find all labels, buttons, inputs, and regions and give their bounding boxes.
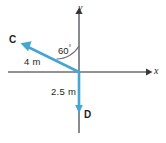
vector-c-label: C (9, 35, 16, 45)
vector-d-magnitude-label: 2.5 m (51, 87, 76, 97)
y-axis-label: y (78, 3, 82, 13)
angle-value: 60 (58, 45, 69, 56)
degree-symbol: ° (69, 44, 72, 51)
vector-d-arrowhead-icon (75, 105, 83, 114)
vector-d-label: D (84, 110, 91, 120)
angle-label: 60° (58, 44, 71, 56)
vector-c-magnitude-label: 4 m (24, 57, 41, 67)
vector-c-arrowhead-icon (21, 41, 32, 51)
vector-d (75, 72, 83, 114)
vector-diagram-figure: y x C D 4 m 2.5 m 60° (0, 0, 166, 143)
vector-diagram-canvas (0, 0, 166, 143)
x-axis-arrowhead-icon (146, 68, 153, 75)
x-axis-label: x (154, 66, 158, 76)
